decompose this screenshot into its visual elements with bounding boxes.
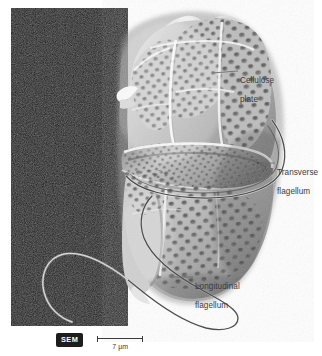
scale-bar-row: SEM 7 µm — [56, 333, 143, 350]
scale-ruler-line — [97, 338, 143, 339]
label-cellulose-plate-line1: Cellulose — [240, 76, 274, 85]
scale-ruler: 7 µm — [97, 333, 143, 350]
label-longitudinal-flagellum-line1: Longitudinal — [195, 282, 240, 291]
sem-micrograph — [0, 0, 322, 356]
label-transverse-flagellum-line2: flagellum — [277, 187, 310, 196]
label-cellulose-plate: Cellulose plate — [240, 66, 274, 104]
sem-figure: Cellulose plate Transverse flagellum Lon… — [0, 0, 322, 356]
dark-background-panel — [11, 8, 128, 326]
label-transverse-flagellum: Transverse flagellum — [277, 158, 318, 196]
scale-value: 7 µm — [97, 343, 143, 350]
label-longitudinal-flagellum: Longitudinal flagellum — [195, 272, 240, 310]
sem-badge: SEM — [56, 333, 83, 347]
label-cellulose-plate-line2: plate — [240, 95, 258, 104]
leader-dot-transverse — [257, 162, 259, 164]
scale-ruler-bar — [97, 336, 143, 342]
label-transverse-flagellum-line1: Transverse — [277, 168, 318, 177]
label-longitudinal-flagellum-line2: flagellum — [195, 301, 228, 310]
